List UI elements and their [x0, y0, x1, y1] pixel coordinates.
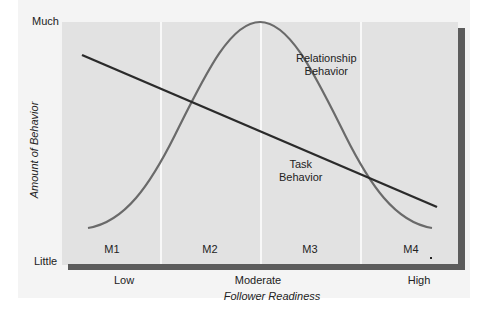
relationship-behavior-label: Relationship Behavior — [296, 52, 357, 78]
marker-dot — [430, 257, 432, 259]
task-behavior-label: Task Behavior — [279, 158, 322, 184]
task-label-line2: Behavior — [279, 171, 322, 184]
x-tick-low: Low — [114, 274, 134, 286]
y-tick-little: Little — [34, 255, 57, 267]
x-tick-moderate: Moderate — [235, 274, 281, 286]
zone-label-m4: M4 — [403, 243, 418, 255]
zone-label-m2: M2 — [202, 243, 217, 255]
y-tick-much: Much — [32, 15, 59, 27]
task-label-line1: Task — [279, 158, 322, 171]
chart-curves — [0, 0, 482, 315]
x-tick-high: High — [408, 274, 431, 286]
relationship-label-line1: Relationship — [296, 52, 357, 65]
task-behavior-line — [82, 55, 437, 207]
relationship-label-line2: Behavior — [296, 65, 357, 78]
y-axis-label: Amount of Behavior — [28, 102, 40, 199]
zone-label-m1: M1 — [104, 243, 119, 255]
zone-label-m3: M3 — [302, 243, 317, 255]
x-axis-label: Follower Readiness — [224, 290, 321, 302]
relationship-behavior-curve — [88, 22, 432, 228]
